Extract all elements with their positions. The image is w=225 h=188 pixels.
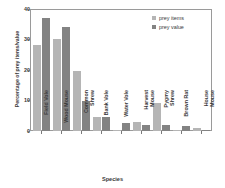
legend-swatch-prey-value xyxy=(152,25,156,29)
legend-swatch-prey-items xyxy=(152,16,156,20)
x-axis-title: Species xyxy=(0,176,225,182)
bar-items xyxy=(53,39,61,131)
x-category-label: Common Shrew xyxy=(84,90,95,136)
legend-label-prey-value: prey value xyxy=(159,24,184,30)
legend-label-prey-items: prey items xyxy=(159,15,184,21)
bar-items xyxy=(133,122,141,131)
y-tick-mark-0 xyxy=(27,131,30,132)
legend-item-prey-items: prey items xyxy=(152,14,208,22)
x-tick-mark xyxy=(201,131,202,134)
bar-items xyxy=(193,128,201,131)
x-tick-mark xyxy=(141,131,142,134)
legend-item-prey-value: prey value xyxy=(152,23,208,31)
x-category-label: Bank Vole xyxy=(104,90,110,136)
x-tick-mark xyxy=(161,131,162,134)
x-category-label: House Mouse xyxy=(204,90,215,136)
x-category-label: Harvest Mouse xyxy=(144,90,155,136)
x-tick-mark xyxy=(81,131,82,134)
x-tick-mark xyxy=(101,131,102,134)
bar-items xyxy=(33,45,41,131)
bar-chart: Percentage of prey items/value 40 30 20 … xyxy=(0,0,225,188)
x-category-label: Pygmy Shrew xyxy=(164,90,175,136)
bar-items xyxy=(73,71,81,132)
legend: prey items prey value xyxy=(152,14,208,32)
x-category-label: Brown Rat xyxy=(184,90,190,136)
x-tick-mark xyxy=(41,131,42,134)
x-category-label: Field Vole xyxy=(44,90,50,136)
x-tick-mark xyxy=(121,131,122,134)
bar-items xyxy=(113,130,121,131)
x-tick-mark xyxy=(61,131,62,134)
x-category-label: Water Vole xyxy=(124,90,130,136)
x-tick-mark xyxy=(181,131,182,134)
x-category-label: Wood Mouse xyxy=(64,90,70,136)
